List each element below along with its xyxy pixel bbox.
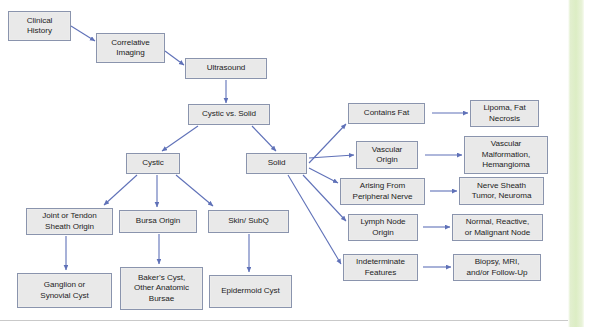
node-normal-reactive-node[interactable]: Normal, Reactive, or Malignant Node xyxy=(452,214,543,241)
slide-bottom-rule xyxy=(0,320,568,321)
node-joint-tendon-sheath[interactable]: Joint or Tendon Sheath Origin xyxy=(26,208,113,235)
node-label: Clinical History xyxy=(9,16,70,37)
node-label: Arising From Peripheral Nerve xyxy=(341,181,424,202)
edge-solid__arising-peripheral-nerve xyxy=(309,168,338,183)
node-solid[interactable]: Solid xyxy=(246,153,307,174)
node-label: Lipoma, Fat Necrosis xyxy=(471,103,538,124)
edge-cystic__skin-subq xyxy=(176,175,213,206)
node-label: Joint or Tendon Sheath Origin xyxy=(27,211,112,232)
node-bakers-cyst[interactable]: Baker’s Cyst, Other Anatomic Bursae xyxy=(120,267,203,310)
node-cystic-vs-solid[interactable]: Cystic vs. Solid xyxy=(188,104,270,125)
node-label: Normal, Reactive, or Malignant Node xyxy=(453,217,542,238)
node-nerve-sheath-tumor[interactable]: Nerve Sheath Tumor, Neuroma xyxy=(459,177,544,205)
edge-cystic-vs-solid__solid xyxy=(252,126,276,151)
node-label: Solid xyxy=(247,158,306,168)
node-epidermoid-cyst[interactable]: Epidermoid Cyst xyxy=(209,275,292,308)
node-label: Indeterminate Features xyxy=(344,257,417,278)
node-label: Biopsy, MRI, and/or Follow-Up xyxy=(454,257,540,278)
node-biopsy-mri-followup[interactable]: Biopsy, MRI, and/or Follow-Up xyxy=(453,254,541,281)
node-label: Lymph Node Origin xyxy=(349,217,417,238)
node-label: Cystic xyxy=(127,158,179,168)
node-indeterminate-features[interactable]: Indeterminate Features xyxy=(343,254,418,281)
flowchart-slide: Clinical HistoryCorrelative ImagingUltra… xyxy=(0,0,589,327)
edge-solid__indeterminate-features xyxy=(288,175,341,264)
node-clinical-history[interactable]: Clinical History xyxy=(8,11,71,41)
node-label: Contains Fat xyxy=(349,108,424,118)
node-vascular-origin[interactable]: Vascular Origin xyxy=(356,141,418,169)
node-vascular-malformation[interactable]: Vascular Malformation, Hemangioma xyxy=(464,136,548,174)
node-label: Vascular Malformation, Hemangioma xyxy=(465,139,547,170)
node-label: Correlative Imaging xyxy=(97,38,164,59)
node-correlative-imaging[interactable]: Correlative Imaging xyxy=(96,33,165,63)
node-label: Nerve Sheath Tumor, Neuroma xyxy=(460,181,543,202)
slide-accent-strip xyxy=(568,0,584,327)
edge-cystic-vs-solid__cystic xyxy=(162,126,198,151)
node-label: Skin/ SubQ xyxy=(209,216,288,226)
node-lymph-node-origin[interactable]: Lymph Node Origin xyxy=(348,214,418,241)
node-label: Bursa Origin xyxy=(120,216,196,226)
node-lipoma-fat-necrosis[interactable]: Lipoma, Fat Necrosis xyxy=(470,100,539,127)
node-ganglion-synovial-cyst[interactable]: Ganglion or Synovial Cyst xyxy=(17,273,112,308)
node-label: Vascular Origin xyxy=(357,145,417,166)
edge-correlative-imaging__ultrasound xyxy=(165,51,184,65)
node-label: Cystic vs. Solid xyxy=(189,109,269,119)
node-label: Ultrasound xyxy=(186,63,266,73)
node-cystic[interactable]: Cystic xyxy=(126,153,180,174)
edge-cystic__joint-tendon-sheath xyxy=(104,175,137,205)
node-label: Baker’s Cyst, Other Anatomic Bursae xyxy=(121,273,202,304)
node-bursa-origin[interactable]: Bursa Origin xyxy=(119,210,197,233)
edge-clinical-history__correlative-imaging xyxy=(71,26,95,41)
node-ultrasound[interactable]: Ultrasound xyxy=(185,58,267,79)
node-contains-fat[interactable]: Contains Fat xyxy=(348,103,425,124)
node-skin-subq[interactable]: Skin/ SubQ xyxy=(208,210,289,233)
node-label: Ganglion or Synovial Cyst xyxy=(18,280,111,301)
node-label: Epidermoid Cyst xyxy=(210,286,291,296)
node-arising-peripheral-nerve[interactable]: Arising From Peripheral Nerve xyxy=(340,178,425,205)
